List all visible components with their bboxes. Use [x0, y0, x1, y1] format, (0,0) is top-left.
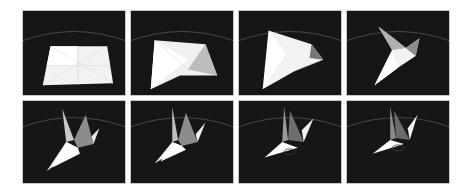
panel-step-8: [346, 100, 450, 184]
crane-wings-raised-image: [23, 101, 125, 183]
panel-step-5: [22, 100, 126, 184]
crane-complete-image: [347, 101, 449, 183]
panel-step-1: [22, 10, 126, 96]
panel-step-7: [238, 100, 342, 184]
flat-sheet-image: [23, 11, 125, 95]
panel-step-2: [130, 10, 234, 96]
crane-wings-raised-image: [131, 101, 233, 183]
crane-settling-image: [239, 101, 341, 183]
panel-step-4: [346, 10, 450, 96]
panel-step-3: [238, 10, 342, 96]
wings-lifting-image: [347, 11, 449, 95]
bird-base-forming-image: [239, 11, 341, 95]
folding-sequence-grid: [22, 10, 450, 184]
panel-step-6: [130, 100, 234, 184]
partially-folded-sheet-image: [131, 11, 233, 95]
